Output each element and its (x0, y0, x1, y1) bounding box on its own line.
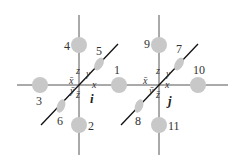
svg-text:y: y (165, 68, 171, 79)
lattice-diagram: 1 2 3 4 5 6 7 8 9 10 11 z y x x̄ ȳ z̄ i … (0, 0, 239, 166)
svg-text:x: x (164, 79, 170, 90)
label-10: 10 (193, 63, 205, 77)
label-8: 8 (135, 114, 141, 128)
svg-text:y: y (85, 68, 91, 79)
node-j-axes (119, 15, 228, 155)
neighbor-11 (151, 117, 167, 133)
neighbor-3 (32, 77, 48, 93)
svg-text:ȳ: ȳ (69, 85, 75, 96)
label-11: 11 (168, 119, 180, 133)
neighbor-6 (55, 98, 67, 114)
svg-text:x: x (91, 79, 97, 90)
svg-text:z: z (75, 65, 80, 76)
axis-labels-j: z y x x̄ ȳ z̄ (142, 65, 171, 100)
label-4: 4 (64, 39, 70, 53)
neighbor-10 (190, 77, 206, 93)
neighbor-1 (111, 77, 127, 93)
neighbor-9 (151, 37, 167, 53)
node-j-label: j (166, 93, 172, 108)
node-i-label: i (90, 91, 94, 106)
svg-text:z̄: z̄ (155, 89, 160, 100)
label-9: 9 (144, 37, 150, 51)
svg-text:ȳ: ȳ (148, 85, 154, 96)
label-7: 7 (176, 42, 182, 56)
neighbor-2 (71, 117, 87, 133)
label-1: 1 (114, 63, 120, 77)
label-6: 6 (57, 114, 63, 128)
svg-text:x̄: x̄ (142, 75, 148, 86)
neighbor-8 (133, 98, 145, 114)
neighbor-4 (71, 37, 87, 53)
label-5: 5 (96, 44, 102, 58)
label-2: 2 (88, 119, 94, 133)
svg-text:z: z (155, 65, 160, 76)
label-3: 3 (36, 94, 42, 108)
svg-text:z̄: z̄ (75, 89, 80, 100)
